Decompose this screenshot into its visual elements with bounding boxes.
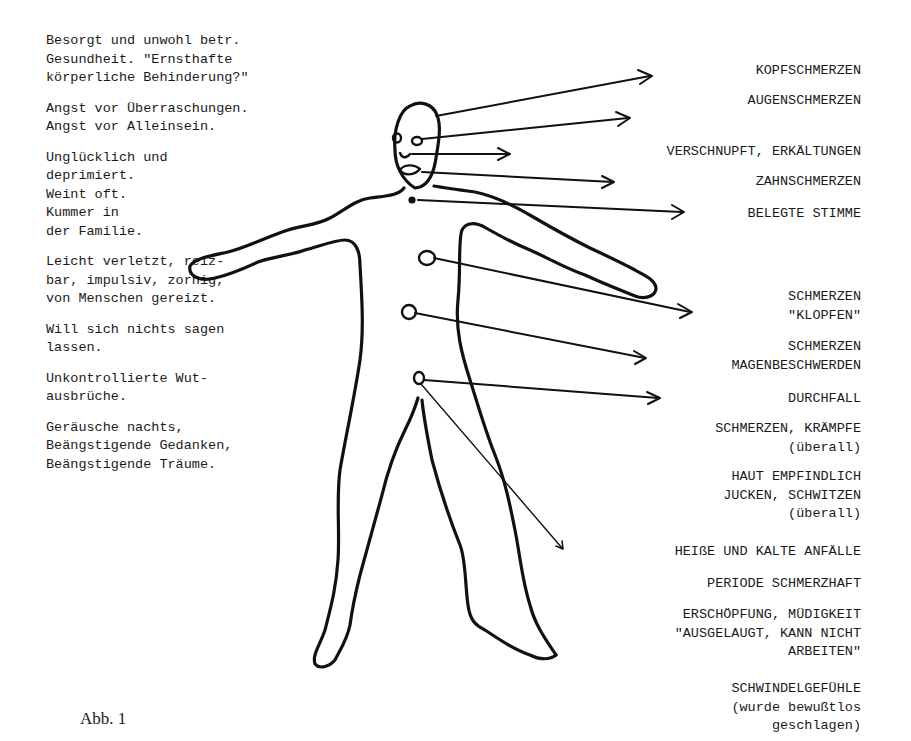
left-side-body	[190, 188, 418, 667]
nose-icon	[400, 153, 410, 157]
right-eye-icon	[412, 137, 422, 145]
body-outline-figure	[0, 0, 911, 741]
figure-caption: Abb. 1	[80, 709, 126, 729]
abdomen-marker-icon	[414, 372, 424, 384]
throat-dot-icon	[410, 198, 414, 202]
left-eye-icon	[393, 134, 401, 143]
heart-marker-icon	[419, 251, 435, 265]
mouth-icon	[400, 165, 420, 174]
stomach-marker-icon	[402, 305, 416, 319]
arrows	[412, 70, 692, 549]
